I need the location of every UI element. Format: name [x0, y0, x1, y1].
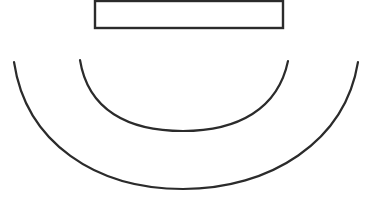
diagram-canvas: [0, 0, 367, 208]
line-art-figure: [0, 0, 367, 208]
canvas-background: [0, 0, 367, 208]
